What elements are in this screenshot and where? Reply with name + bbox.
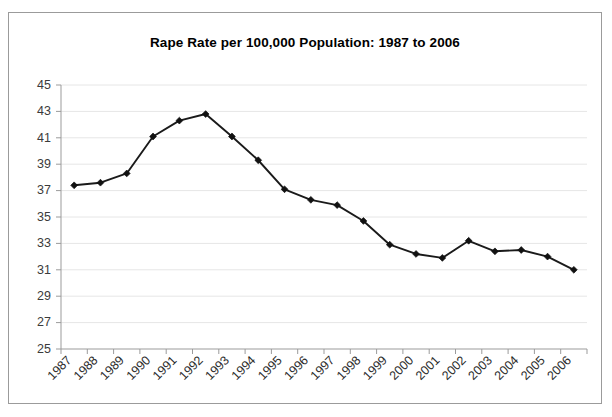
axis-lines: [56, 85, 587, 354]
chart-frame: Rape Rate per 100,000 Population: 1987 t…: [8, 12, 602, 404]
x-axis-tick-label: 1990: [124, 353, 154, 383]
x-axis-tick-label: 2005: [518, 353, 548, 383]
x-axis-tick-label: 1992: [176, 353, 206, 383]
data-point-marker: [413, 251, 420, 258]
x-axis-tick-label: 1999: [360, 353, 390, 383]
data-point-marker: [492, 248, 499, 255]
x-axis-tick-label: 1996: [281, 353, 311, 383]
x-axis-tick-label: 1998: [334, 353, 364, 383]
x-axis-tick-label: 2004: [492, 353, 522, 383]
y-axis-tick-label: 37: [37, 183, 51, 197]
line-chart-plot: 2527293133353739414345 19871988198919901…: [9, 13, 603, 405]
x-axis-tick-label: 2002: [439, 353, 469, 383]
y-axis-tick-label: 39: [37, 157, 51, 171]
y-axis-tick-label: 35: [37, 210, 51, 224]
y-axis-tick-label: 43: [37, 104, 51, 118]
y-axis-tick-label: 31: [37, 263, 51, 277]
x-axis-tick-label: 2003: [466, 353, 496, 383]
y-axis-tick-label: 41: [37, 131, 51, 145]
data-series-rape-rate: [71, 111, 578, 274]
x-axis-tick-label: 1993: [203, 353, 233, 383]
x-axis-tick-label: 2000: [387, 353, 417, 383]
y-axis-tick-labels: 2527293133353739414345: [37, 78, 51, 356]
x-axis-tick-label: 1997: [308, 353, 338, 383]
data-point-marker: [518, 247, 525, 254]
x-axis-tick-label: 2001: [413, 353, 443, 383]
data-point-marker: [71, 182, 78, 189]
y-axis-tick-label: 29: [37, 289, 51, 303]
x-axis-tick-label: 1989: [97, 353, 127, 383]
data-point-marker: [570, 266, 577, 273]
y-axis-tick-label: 27: [37, 315, 51, 329]
gridlines-group: [61, 85, 587, 323]
x-axis-tick-label: 2006: [544, 353, 574, 383]
y-axis-tick-label: 33: [37, 236, 51, 250]
data-point-marker: [544, 253, 551, 260]
x-axis-tick-label: 1988: [71, 353, 101, 383]
data-point-marker: [97, 179, 104, 186]
y-axis-tick-label: 25: [37, 342, 51, 356]
data-point-marker: [307, 196, 314, 203]
x-axis-tick-label: 1991: [150, 353, 180, 383]
x-axis-tick-label: 1987: [45, 353, 75, 383]
y-axis-tick-label: 45: [37, 78, 51, 92]
x-axis-tick-labels: 1987198819891990199119921993199419951996…: [45, 353, 574, 383]
x-axis-tick-label: 1995: [255, 353, 285, 383]
x-axis-tick-label: 1994: [229, 353, 259, 383]
